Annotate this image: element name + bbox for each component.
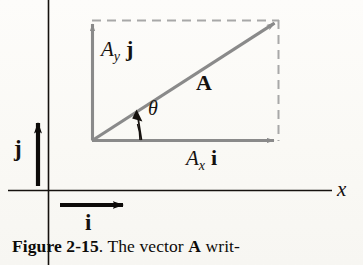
y-component-symbol: A — [101, 37, 114, 61]
vector-diagram — [0, 0, 363, 265]
x-component-subscript: x — [199, 158, 205, 173]
y-component-subscript: y — [114, 49, 120, 64]
angle-arrowhead-icon — [132, 110, 142, 122]
angle-label: θ — [148, 98, 158, 118]
unit-vector-j-label: j — [14, 137, 22, 160]
caption-vector-symbol: A — [188, 236, 201, 256]
figure-number: Figure 2-15 — [12, 236, 99, 256]
x-component-unit-vector: i — [211, 145, 217, 170]
caption-text-after: writ- — [201, 236, 240, 256]
figure-page: Ayj Axi A θ x j i Figure 2-15. The vecto… — [0, 0, 363, 265]
x-component-label: Axi — [186, 147, 217, 173]
resultant-vector-label: A — [196, 72, 212, 94]
x-axis-label: x — [337, 179, 346, 200]
x-component-symbol: A — [186, 146, 199, 170]
y-component-label: Ayj — [101, 38, 133, 64]
figure-caption: Figure 2-15. The vector A writ- — [12, 236, 363, 257]
caption-text-before: The vector — [103, 236, 188, 256]
unit-vector-i-label: i — [85, 211, 91, 234]
y-component-unit-vector: j — [126, 36, 133, 61]
